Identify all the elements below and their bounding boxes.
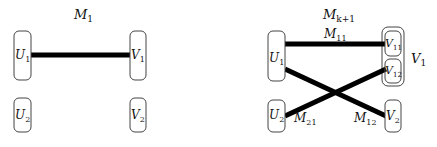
- node-v2: V2: [385, 100, 401, 132]
- group-v1-label: V1: [411, 51, 426, 68]
- node-u1: U1: [268, 31, 285, 81]
- edge-label-m12: M12: [353, 111, 376, 127]
- right-title: Mk+1: [322, 7, 355, 24]
- node-u2: U2: [268, 100, 285, 132]
- right-diagram: Mk+1 V1 M11 M21 M12 U1 U2 V11 V12: [268, 7, 426, 132]
- node-v2: V2: [130, 98, 146, 132]
- node-u2: U2: [14, 98, 31, 132]
- node-v1: V1: [130, 31, 146, 80]
- matching-diagram: M1 U1 U2 V1 V2 Mk+1 V1 M11 M21 M1: [0, 0, 437, 147]
- node-u1: U1: [14, 31, 31, 80]
- left-title: M1: [73, 7, 93, 24]
- left-diagram: M1 U1 U2 V1 V2: [14, 7, 146, 132]
- edge-label-m21: M21: [293, 111, 316, 127]
- edge-label-m11: M11: [323, 27, 346, 43]
